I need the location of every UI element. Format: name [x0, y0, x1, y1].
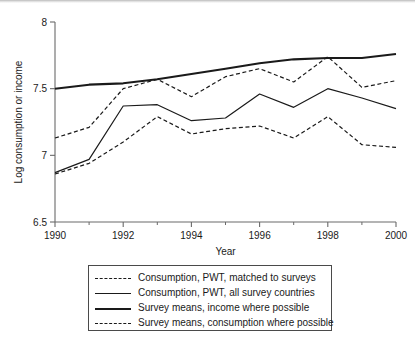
legend-item-label: Consumption, PWT, all survey countries: [138, 287, 315, 299]
chart-legend: Consumption, PWT, matched to surveys Con…: [88, 265, 332, 331]
data-series-layer: [55, 54, 396, 174]
legend-item: Consumption, PWT, all survey countries: [89, 285, 331, 300]
x-tick-label: 1998: [317, 230, 340, 241]
x-tick-label: 2000: [385, 230, 408, 241]
x-axis-title: Year: [215, 246, 236, 257]
y-tick-label: 6.5: [33, 217, 47, 228]
y-tick-label: 8: [41, 17, 47, 28]
legend-item: Survey means, consumption where possible: [89, 315, 331, 330]
legend-item-label: Survey means, income where possible: [138, 302, 309, 314]
x-tick-label: 1992: [112, 230, 135, 241]
axis-labels: 6.577.58199019921994199619982000YearLog …: [13, 17, 408, 258]
legend-swatch-dashed-icon: [95, 272, 131, 284]
x-tick-label: 1994: [180, 230, 203, 241]
y-axis-title: Log consumption or income: [13, 60, 24, 183]
legend-item: Consumption, PWT, matched to surveys: [89, 270, 331, 285]
y-tick-label: 7.5: [33, 83, 47, 94]
legend-swatch-solid-thin-icon: [95, 287, 131, 299]
series-line-3: [55, 117, 396, 174]
axes: [50, 22, 396, 227]
y-tick-label: 7: [41, 150, 47, 161]
legend-swatch-solid-thick-icon: [95, 302, 131, 314]
x-tick-label: 1996: [248, 230, 271, 241]
legend-item: Survey means, income where possible: [89, 300, 331, 315]
x-tick-label: 1990: [44, 230, 67, 241]
legend-item-label: Survey means, consumption where possible: [138, 317, 334, 329]
figure-line-chart: 6.577.58199019921994199619982000YearLog …: [0, 0, 415, 344]
legend-item-label: Consumption, PWT, matched to surveys: [138, 272, 316, 284]
legend-swatch-dashed-icon: [95, 317, 131, 329]
